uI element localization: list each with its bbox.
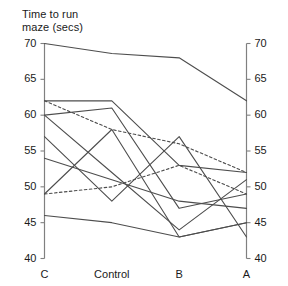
right-tick-label: 55 xyxy=(255,144,277,156)
right-tick-label: 40 xyxy=(255,252,277,264)
data-line-subject-4 xyxy=(45,108,247,208)
left-tick-label: 45 xyxy=(15,216,37,228)
left-tick-label: 60 xyxy=(15,108,37,120)
right-tick-label: 60 xyxy=(255,108,277,120)
left-tick-label: 40 xyxy=(15,252,37,264)
chart-container: Time to run maze (secs) 70656055504540 7… xyxy=(0,0,288,286)
x-category-label-a: A xyxy=(243,268,250,280)
right-tick-label: 50 xyxy=(255,180,277,192)
left-tick-label: 70 xyxy=(15,37,37,49)
right-tick-label: 65 xyxy=(255,72,277,84)
right-tick-label: 70 xyxy=(255,37,277,49)
data-line-subject-6 xyxy=(45,137,247,237)
left-tick-label: 65 xyxy=(15,72,37,84)
right-tick-label: 45 xyxy=(255,216,277,228)
data-line-subject-9 xyxy=(45,130,247,238)
x-category-label-b: B xyxy=(175,268,182,280)
data-line-subject-1 xyxy=(45,44,247,101)
plot-area xyxy=(0,0,288,286)
data-line-subject-10 xyxy=(45,216,247,238)
x-category-label-c: C xyxy=(41,268,49,280)
left-tick-label: 50 xyxy=(15,180,37,192)
left-tick-label: 55 xyxy=(15,144,37,156)
x-category-label-control: Control xyxy=(94,268,129,280)
